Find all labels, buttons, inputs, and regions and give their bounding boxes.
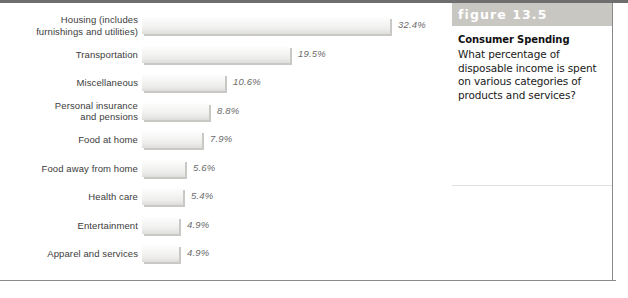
bar-fill: [142, 217, 179, 234]
category-label-line: Health care: [0, 191, 138, 203]
bar-fill: [142, 131, 202, 148]
bar-value-label: 19.5%: [298, 48, 326, 59]
chart-bar: [142, 46, 290, 65]
bar-chart: Housing (includesfurnishings and utiliti…: [0, 3, 448, 278]
category-label-line: Transportation: [0, 49, 138, 61]
bar-value-label: 5.4%: [191, 190, 213, 201]
bar-fill: [142, 245, 179, 262]
category-label-line: Miscellaneous: [0, 77, 138, 89]
figure-number-band: figure 13.5: [452, 3, 612, 26]
bar-fill: [142, 46, 290, 63]
category-label-line: and pensions: [0, 111, 138, 123]
bar-fill: [142, 74, 225, 91]
category-label-line: Personal insurance: [0, 100, 138, 112]
chart-bar: [142, 160, 185, 179]
category-label: Food at home: [0, 134, 138, 146]
bar-shadow-right: [225, 76, 227, 93]
chart-bar: [142, 103, 209, 122]
bar-shadow-right: [390, 19, 392, 36]
category-label-line: Food at home: [0, 134, 138, 146]
chart-row: Entertainment4.9%: [0, 215, 448, 241]
chart-row: Personal insuranceand pensions8.8%: [0, 101, 448, 127]
category-label-line: Apparel and services: [0, 248, 138, 260]
chart-bar: [142, 245, 179, 264]
chart-bar: [142, 217, 179, 236]
bar-value-label: 10.6%: [233, 76, 261, 87]
bar-shadow-right: [183, 190, 185, 207]
bar-value-label: 5.6%: [193, 162, 215, 173]
bar-fill: [142, 103, 209, 120]
chart-row: Food at home7.9%: [0, 129, 448, 155]
bar-shadow-right: [209, 105, 211, 122]
chart-row: Apparel and services4.9%: [0, 243, 448, 269]
chart-row: Transportation19.5%: [0, 44, 448, 70]
bar-fill: [142, 160, 185, 177]
figure-page: Housing (includesfurnishings and utiliti…: [0, 0, 628, 298]
chart-row: Housing (includesfurnishings and utiliti…: [0, 15, 448, 41]
bar-fill: [142, 188, 183, 205]
bar-value-label: 7.9%: [210, 133, 232, 144]
chart-row: Health care5.4%: [0, 186, 448, 212]
category-label-line: furnishings and utilities): [0, 26, 138, 38]
figure-number-label: figure 13.5: [458, 7, 548, 22]
bar-fill: [142, 17, 390, 34]
bar-value-label: 32.4%: [398, 19, 426, 30]
bar-shadow-right: [185, 162, 187, 179]
chart-row: Food away from home5.6%: [0, 158, 448, 184]
bar-value-label: 8.8%: [217, 105, 239, 116]
category-label: Miscellaneous: [0, 77, 138, 89]
category-label-line: Housing (includes: [0, 14, 138, 26]
bottom-divider-rule: [0, 280, 616, 281]
chart-bar: [142, 131, 202, 150]
category-label-line: Food away from home: [0, 163, 138, 175]
bar-shadow-right: [290, 48, 292, 65]
category-label: Transportation: [0, 49, 138, 61]
sidebar-hairline: [452, 185, 612, 186]
category-label: Personal insuranceand pensions: [0, 100, 138, 123]
chart-bar: [142, 188, 183, 207]
bar-shadow-right: [179, 247, 181, 264]
caption-body: What percentage of disposable income is …: [458, 48, 608, 102]
chart-row: Miscellaneous10.6%: [0, 72, 448, 98]
figure-caption-panel: figure 13.5 Consumer Spending What perce…: [452, 3, 612, 278]
category-label: Housing (includesfurnishings and utiliti…: [0, 14, 138, 37]
bar-shadow-right: [179, 219, 181, 236]
bar-shadow-right: [202, 133, 204, 150]
category-label: Entertainment: [0, 220, 138, 232]
bar-value-label: 4.9%: [187, 247, 209, 258]
chart-bar: [142, 74, 225, 93]
caption-title: Consumer Spending: [458, 34, 569, 45]
category-label: Apparel and services: [0, 248, 138, 260]
category-label-line: Entertainment: [0, 220, 138, 232]
right-border-rule: [612, 3, 613, 281]
chart-bar: [142, 17, 390, 36]
bar-value-label: 4.9%: [187, 219, 209, 230]
category-label: Health care: [0, 191, 138, 203]
category-label: Food away from home: [0, 163, 138, 175]
